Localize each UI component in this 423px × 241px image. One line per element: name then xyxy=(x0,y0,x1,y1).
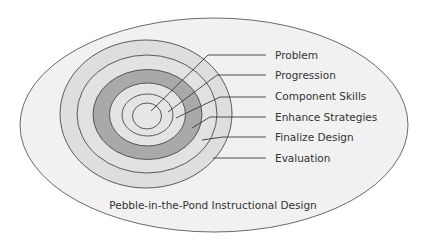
label-enhance-strategies: Enhance Strategies xyxy=(275,111,377,123)
diagram-title: Pebble-in-the-Pond Instructional Design xyxy=(109,199,316,211)
pebble-in-pond-diagram: Problem Progression Component Skills Enh… xyxy=(0,0,423,241)
label-finalize-design: Finalize Design xyxy=(275,131,354,143)
label-evaluation: Evaluation xyxy=(275,152,330,164)
label-progression: Progression xyxy=(275,69,336,81)
label-problem: Problem xyxy=(275,49,318,61)
label-component-skills: Component Skills xyxy=(275,90,366,102)
ripple-problem xyxy=(133,103,162,129)
